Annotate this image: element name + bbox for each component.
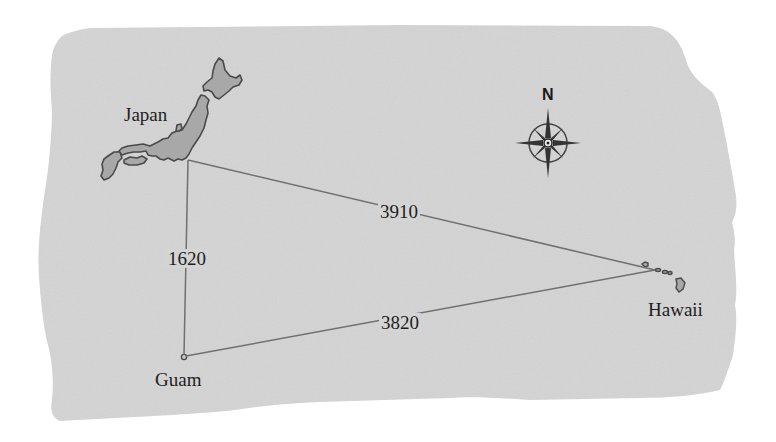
compass-north-label: N [542, 87, 554, 103]
paper-background [39, 25, 737, 421]
guam-marker [181, 354, 186, 359]
distance-label-japan-hawaii: 3910 [378, 202, 420, 221]
map-figure: Japan Guam Hawaii 3910 1620 3820 N [0, 0, 776, 442]
place-label-hawaii: Hawaii [648, 300, 703, 319]
place-label-japan: Japan [124, 105, 167, 124]
distance-label-guam-hawaii: 3820 [379, 313, 421, 332]
distance-label-japan-guam: 1620 [166, 249, 208, 268]
place-label-guam: Guam [155, 370, 201, 389]
